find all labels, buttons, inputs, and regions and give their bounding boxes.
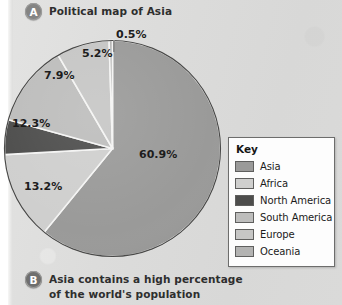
slice-label-south-america: 12.3% xyxy=(12,117,50,130)
legend-item: Europe xyxy=(235,226,329,243)
figure-page: A Political map of Asia 0.5% 5.2% 7.9% 1… xyxy=(0,0,342,305)
legend-swatch xyxy=(235,212,254,223)
legend-item-label: Africa xyxy=(260,178,288,189)
legend-item: Africa xyxy=(235,175,329,192)
legend-box: Key AsiaAfricaNorth AmericaSouth America… xyxy=(228,137,335,267)
leader-line-oceania xyxy=(113,40,115,52)
legend-swatch xyxy=(235,161,254,172)
slice-label-north-america: 5.2% xyxy=(82,47,113,60)
legend-rows: AsiaAfricaNorth AmericaSouth AmericaEuro… xyxy=(235,158,329,260)
legend-item-label: Europe xyxy=(260,229,295,240)
caption-b: B Asia contains a high percentage of the… xyxy=(25,271,243,301)
legend-swatch xyxy=(235,229,254,240)
legend-item: South America xyxy=(235,209,329,226)
caption-b-line2: of the world's population xyxy=(49,287,243,302)
legend-swatch xyxy=(235,246,254,257)
slice-label-europe: 7.9% xyxy=(44,69,75,82)
legend-swatch xyxy=(235,178,254,189)
pie-outline xyxy=(5,41,221,257)
legend-swatch xyxy=(235,195,254,206)
legend-item-label: Asia xyxy=(260,161,281,172)
legend-item-label: North America xyxy=(260,195,331,206)
legend-item: North America xyxy=(235,192,329,209)
legend-title: Key xyxy=(235,143,329,155)
caption-b-line1: Asia contains a high percentage xyxy=(49,273,243,285)
slice-label-asia: 60.9% xyxy=(139,148,177,161)
legend-item-label: Oceania xyxy=(260,246,300,257)
caption-b-text: Asia contains a high percentage of the w… xyxy=(49,271,243,301)
legend-item: Oceania xyxy=(235,243,329,260)
slice-label-oceania: 0.5% xyxy=(116,28,147,41)
legend-item: Asia xyxy=(235,158,329,175)
slice-label-africa: 13.2% xyxy=(24,180,62,193)
caption-b-badge: B xyxy=(25,271,42,288)
legend-item-label: South America xyxy=(260,212,332,223)
